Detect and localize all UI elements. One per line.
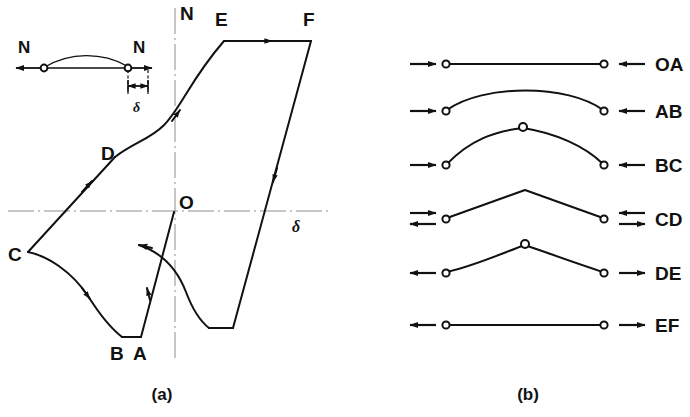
curve-segment-return-arc bbox=[139, 245, 209, 328]
strut-pin-left-BC bbox=[442, 161, 449, 168]
strut-pin-right-EF bbox=[600, 321, 607, 328]
arrowhead-BC bbox=[82, 288, 90, 299]
strut-shape-DE-right bbox=[525, 245, 603, 272]
inset-buckled-strut: N N δ bbox=[16, 38, 152, 115]
strut-pin-left-DE bbox=[442, 269, 449, 276]
strut-pin-left-CD bbox=[442, 215, 449, 222]
point-label-B: B bbox=[110, 343, 124, 364]
inset-label-delta: δ bbox=[133, 100, 140, 115]
strut-label-OA: OA bbox=[655, 54, 684, 75]
strut-label-BC: BC bbox=[655, 155, 683, 176]
strut-row-AB: AB bbox=[410, 91, 682, 123]
strut-pin-right-DE bbox=[600, 269, 607, 276]
curve-segment-OA bbox=[141, 212, 174, 337]
point-label-C: C bbox=[8, 244, 22, 265]
inset-label-N-left: N bbox=[18, 38, 30, 57]
strut-pin-right-CD bbox=[600, 215, 607, 222]
axis-label-N: N bbox=[180, 3, 194, 24]
strut-pin-left-AB bbox=[442, 107, 449, 114]
strut-hinge-apex-DE bbox=[521, 240, 529, 248]
strut-row-EF: EF bbox=[410, 315, 679, 336]
strut-label-EF: EF bbox=[655, 315, 679, 336]
curve-segment-BC bbox=[28, 252, 122, 337]
caption-panel-b: (b) bbox=[517, 385, 539, 404]
strut-shape-CD bbox=[447, 190, 603, 218]
arrowhead-OA bbox=[147, 288, 150, 300]
panel-b: OA AB BC bbox=[410, 54, 684, 404]
strut-pin-left-OA bbox=[442, 60, 449, 67]
strut-row-OA: OA bbox=[410, 54, 684, 75]
strut-pin-left-EF bbox=[442, 321, 449, 328]
strut-shape-BC-left bbox=[447, 128, 523, 164]
axis-label-delta: δ bbox=[292, 218, 300, 235]
strut-pin-right-OA bbox=[600, 60, 607, 67]
inset-pin-left bbox=[41, 65, 48, 72]
curve-segment-CD bbox=[28, 157, 115, 252]
point-label-A: A bbox=[133, 343, 147, 364]
inset-label-N-right: N bbox=[133, 38, 145, 57]
strut-pin-right-AB bbox=[600, 107, 607, 114]
origin-label-O: O bbox=[179, 192, 194, 213]
strut-label-DE: DE bbox=[655, 263, 681, 284]
point-label-F: F bbox=[303, 9, 315, 30]
arrowhead-CD bbox=[82, 181, 92, 192]
strut-row-BC: BC bbox=[410, 123, 683, 176]
strut-pin-right-BC bbox=[600, 161, 607, 168]
curve-segment-DE bbox=[115, 41, 224, 157]
point-label-D: D bbox=[101, 143, 115, 164]
strut-row-CD: CD bbox=[410, 190, 682, 230]
arrowhead-DE bbox=[172, 110, 180, 121]
curve-segment-F-descent bbox=[233, 41, 311, 328]
strut-shape-AB bbox=[447, 91, 603, 111]
strut-label-CD: CD bbox=[655, 209, 682, 230]
panel-a: N δ O bbox=[8, 3, 330, 404]
strut-hinge-apex-BC bbox=[519, 123, 527, 131]
strut-shape-DE-left bbox=[447, 245, 525, 272]
strut-row-DE: DE bbox=[410, 240, 681, 284]
caption-panel-a: (a) bbox=[152, 385, 173, 404]
point-label-E: E bbox=[215, 9, 228, 30]
figure-container: N δ O bbox=[0, 0, 690, 417]
strut-label-AB: AB bbox=[655, 101, 682, 122]
strut-shape-BC-right bbox=[523, 128, 603, 164]
technical-figure: N δ O bbox=[0, 0, 690, 417]
inset-buckled-curve bbox=[45, 56, 127, 67]
